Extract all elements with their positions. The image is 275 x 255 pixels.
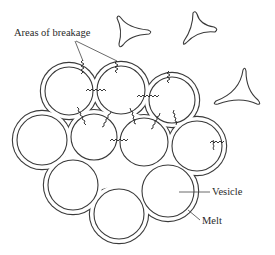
vesicle-breakage-diagram: Areas of breakage Vesicle Melt [0,0,275,255]
shard-2 [183,12,216,44]
melt-envelope [12,61,227,244]
shard-1 [117,16,151,47]
melt-label: Melt [202,215,222,226]
melt-leader [188,210,200,220]
shard-3 [214,68,259,104]
breakage-label: Areas of breakage [14,27,91,38]
vesicle-label: Vesicle [212,186,243,197]
